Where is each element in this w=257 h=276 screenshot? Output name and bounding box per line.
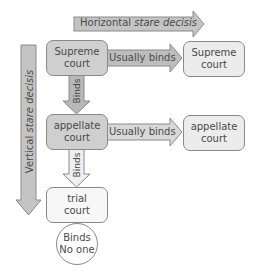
node-label: appellate: [54, 120, 101, 132]
node-label: Supreme: [55, 46, 100, 58]
supreme-court-node-left: Supreme court: [46, 40, 108, 76]
supreme-usually-binds-label: Usually binds: [109, 52, 176, 63]
node-label: court: [64, 205, 90, 217]
node-label: Supreme: [192, 47, 237, 59]
node-label: No one: [59, 244, 94, 256]
node-label: appellate: [191, 121, 238, 133]
node-label: Binds: [59, 232, 94, 244]
appellate-usually-binds-label: Usually binds: [109, 126, 176, 137]
node-label: trial: [64, 193, 90, 205]
supreme-court-node-right: Supreme court: [183, 41, 245, 77]
node-label: court: [192, 59, 237, 71]
node-label: court: [55, 58, 100, 70]
node-label: court: [191, 133, 238, 145]
appellate-court-node-right: appellate court: [183, 115, 245, 151]
supreme-binds-label: Binds: [72, 76, 82, 106]
horizontal-label-plain: Horizontal: [80, 17, 134, 28]
horizontal-label-italic: stare decisis: [134, 17, 197, 28]
vertical-label-italic: stare decisis: [24, 70, 35, 133]
horizontal-stare-decisis-label: Horizontal stare decisis: [80, 17, 197, 28]
trial-court-node: trial court: [46, 187, 108, 223]
vertical-label-plain: Vertical: [24, 133, 35, 174]
appellate-court-node-left: appellate court: [46, 114, 108, 150]
node-label: court: [54, 132, 101, 144]
appellate-binds-label: Binds: [72, 150, 82, 180]
binds-no-one-node: Binds No one: [56, 223, 98, 265]
vertical-stare-decisis-label: Vertical stare decisis: [24, 67, 35, 177]
